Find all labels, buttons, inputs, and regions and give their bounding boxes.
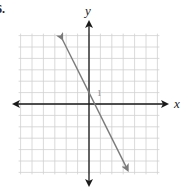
- y-axis-label: y: [83, 3, 91, 18]
- x-axis-label: x: [173, 96, 180, 111]
- tick-label-y1: 1: [97, 88, 102, 98]
- coordinate-graph: x y 1: [0, 0, 191, 192]
